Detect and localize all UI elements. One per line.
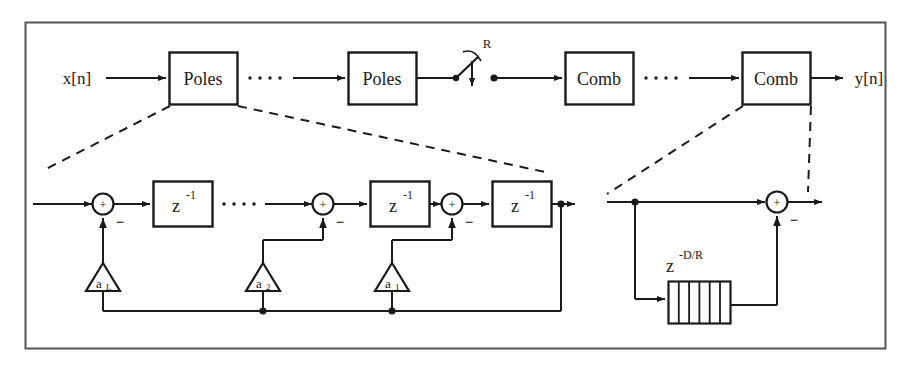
- coef-aL-base: a: [96, 276, 102, 291]
- input-signal-label: x[n]: [63, 69, 91, 88]
- adder-comb-minus: −: [790, 212, 799, 228]
- adder-2-minus: −: [336, 214, 345, 230]
- delay-line-box: [669, 282, 731, 324]
- adder-1-minus: −: [116, 214, 125, 230]
- coef-a1-subscript: 1: [395, 282, 400, 292]
- adder-3-plus: +: [448, 197, 455, 212]
- figure-canvas: x[n] Poles Poles R: [0, 0, 914, 369]
- block-comb-2-label: Comb: [754, 69, 798, 89]
- adder-2-plus: +: [319, 197, 326, 212]
- delay-3-exponent: -1: [525, 188, 535, 202]
- diagram-svg: x[n] Poles Poles R: [0, 0, 914, 369]
- block-delay-2: [371, 182, 430, 227]
- adder-1-plus: +: [99, 197, 106, 212]
- delay-1-exponent: -1: [186, 188, 196, 202]
- block-delay-3: [493, 182, 552, 227]
- adder-3-minus: −: [465, 214, 474, 230]
- coef-a1-base: a: [385, 276, 391, 291]
- output-signal-label: y[n]: [855, 69, 883, 88]
- block-delay-1: [154, 182, 213, 227]
- adder-comb-plus: +: [773, 195, 780, 210]
- block-poles-2-label: Poles: [362, 69, 401, 89]
- comb-delay-base: z: [666, 256, 674, 276]
- block-poles-1-label: Poles: [183, 69, 222, 89]
- delay-1-base: z: [172, 196, 180, 216]
- block-comb-1-label: Comb: [577, 69, 621, 89]
- downsample-rate-label: R: [483, 36, 492, 51]
- delay-3-base: z: [511, 196, 519, 216]
- delay-2-base: z: [389, 196, 397, 216]
- coef-a2-subscript: 2: [266, 282, 271, 292]
- coef-aL-subscript: L: [106, 282, 112, 292]
- coef-a2-base: a: [256, 276, 262, 291]
- comb-delay-exponent: -D/R: [679, 248, 703, 262]
- delay-2-exponent: -1: [403, 188, 413, 202]
